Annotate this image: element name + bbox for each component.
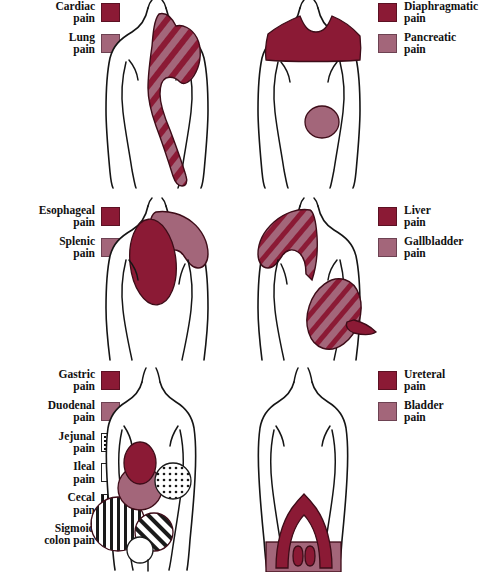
swatch-liver-pain <box>378 207 397 226</box>
legend-item: Ureteral pain <box>378 368 495 393</box>
pain-region-jejunal <box>155 463 191 499</box>
pain-region-gastric <box>124 442 156 484</box>
legend-label: Esophageal pain <box>39 204 101 229</box>
legend-row3-right: Ureteral pain Bladder pain <box>378 368 495 430</box>
legend-label: Gallbladder pain <box>397 235 463 260</box>
figure-liver-gallbladder <box>248 198 378 363</box>
legend-label: Diaphragmatic pain <box>397 0 478 25</box>
diagram-row-1: Cardiac pain Lung pain Diaphragmatic pai… <box>0 0 495 190</box>
figure-gi-tract <box>96 364 236 572</box>
legend-row1-right: Diaphragmatic pain Pancreatic pain <box>378 0 495 62</box>
pain-region-pancreatic <box>305 106 339 138</box>
legend-label: Liver pain <box>397 204 431 229</box>
swatch-pancreatic-pain <box>378 34 397 53</box>
legend-label: Splenic pain <box>59 235 101 260</box>
legend-row2-right: Liver pain Gallbladder pain <box>378 204 495 266</box>
legend-item: Liver pain <box>378 204 495 229</box>
pain-region-ileal <box>127 537 153 563</box>
pain-region-ureteral-central-2 <box>305 546 315 566</box>
referred-pain-diagram: Cardiac pain Lung pain Diaphragmatic pai… <box>0 0 495 572</box>
diagram-row-2: Esophageal pain Splenic pain Liver pain … <box>0 190 495 360</box>
pain-region-ureteral-central <box>293 546 303 566</box>
legend-item: Diaphragmatic pain <box>378 0 495 25</box>
legend-item: Gallbladder pain <box>378 235 495 260</box>
legend-label: Jejunal pain <box>59 430 101 455</box>
legend-label: Pancreatic pain <box>397 31 456 56</box>
swatch-diaphragmatic-pain <box>378 3 397 22</box>
figure-ureteral-bladder <box>248 364 388 572</box>
diagram-row-3: Gastric pain Duodenal pain Jejunal pain … <box>0 360 495 572</box>
legend-label: Ureteral pain <box>397 368 445 393</box>
legend-item: Pancreatic pain <box>378 31 495 56</box>
legend-label: Bladder pain <box>397 399 444 424</box>
legend-item: Bladder pain <box>378 399 495 424</box>
swatch-gallbladder-pain <box>378 238 397 257</box>
figure-diaphragmatic-pancreatic <box>248 0 378 190</box>
pain-region-diaphragmatic <box>266 16 361 62</box>
legend-label: Cardiac pain <box>55 0 101 25</box>
figure-cardiac-lung <box>96 0 226 190</box>
figure-esophageal-splenic <box>96 198 226 363</box>
legend-label: Duodenal pain <box>48 399 101 424</box>
legend-label: Gastric pain <box>59 368 101 393</box>
pain-region-gallbladder <box>298 268 388 363</box>
